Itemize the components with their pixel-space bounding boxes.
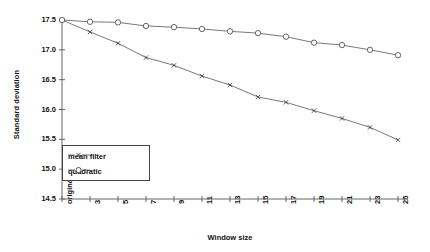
data-point [339, 42, 344, 47]
legend-item-quadratic: quadratic [68, 165, 102, 177]
data-point [311, 40, 316, 45]
data-point [283, 34, 288, 39]
data-point [227, 29, 232, 34]
plot-area [0, 0, 430, 252]
data-point [144, 55, 148, 59]
legend-item-mean-filter: mean filter [68, 150, 106, 162]
series-line-mean-filter [62, 20, 398, 140]
data-point [200, 74, 204, 78]
data-point [171, 24, 176, 29]
legend-marker-circle-icon [68, 165, 90, 175]
data-point [340, 116, 344, 120]
data-point [255, 30, 260, 35]
legend: mean filter quadratic [62, 145, 150, 181]
data-point [199, 26, 204, 31]
data-point [367, 47, 372, 52]
data-point [143, 23, 148, 28]
data-point [395, 53, 400, 58]
series-line-quadratic [62, 20, 398, 55]
data-point [88, 30, 92, 34]
data-point [116, 41, 120, 45]
data-point [59, 17, 64, 22]
data-point [172, 63, 176, 67]
data-point [368, 125, 372, 129]
legend-marker-x-icon [68, 150, 90, 160]
data-point [115, 20, 120, 25]
data-point [87, 19, 92, 24]
data-point [228, 83, 232, 87]
chart-container: Standard deviation Window size 14.515.01… [0, 0, 430, 252]
data-point [396, 138, 400, 142]
data-point [312, 108, 316, 112]
